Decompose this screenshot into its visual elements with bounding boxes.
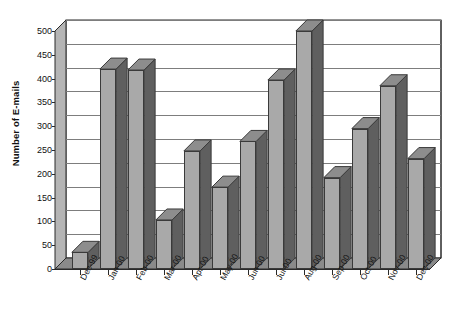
bar-chart: Number of E-mails 0501001502002503003504…: [0, 0, 473, 315]
bar: [408, 159, 424, 269]
x-axis-line: [52, 269, 430, 270]
